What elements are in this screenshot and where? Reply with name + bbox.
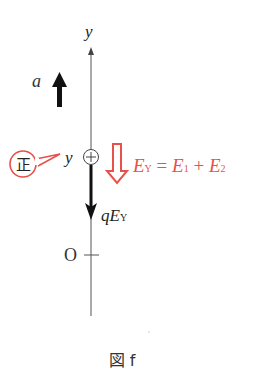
force-label: qEY: [101, 206, 127, 225]
position-label: y: [63, 148, 73, 167]
positive-badge: 正: [10, 151, 60, 177]
stray-dot: [148, 331, 149, 332]
acceleration-label: a: [32, 71, 41, 91]
y-axis-arrowhead: [88, 47, 94, 55]
field-arrow-icon: [107, 144, 127, 183]
origin-label: O: [64, 245, 77, 265]
field-equation: EY = E1 + E2: [132, 155, 226, 176]
physics-diagram: y a 正 y qEY EY = E1 + E2 O 図 f: [0, 0, 258, 374]
positive-charge-icon: [84, 150, 99, 165]
acceleration-arrow-icon: [52, 72, 67, 107]
figure-caption: 図 f: [109, 351, 136, 370]
y-axis-label: y: [83, 22, 93, 41]
force-arrow-icon: [85, 165, 97, 220]
positive-badge-label: 正: [16, 156, 31, 174]
